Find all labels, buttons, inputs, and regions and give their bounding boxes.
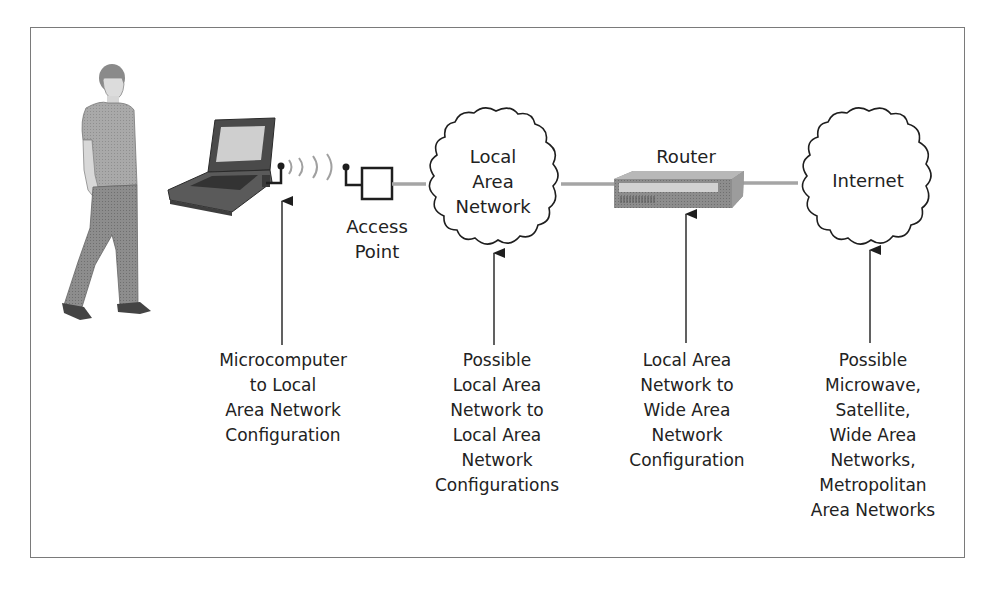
lan-label-line: Area [455,169,530,194]
annotation-line: Configuration [219,423,347,448]
router-label: Router [656,144,716,169]
router-label-line: Router [656,144,716,169]
annotation-internet: Possible Microwave, Satellite, Wide Area… [811,348,935,523]
annotation-line: Possible [811,348,935,373]
lan-label: Local Area Network [455,144,530,219]
annotation-line: to Local [219,373,347,398]
internet-label-line: Internet [832,168,903,193]
annotation-line: Local Area [629,348,744,373]
annotation-line: Network [629,423,744,448]
access-point-label-line: Access [346,214,408,239]
annotation-line: Network to [435,398,559,423]
router-icon [614,171,744,208]
access-point-label-line: Point [346,239,408,264]
annotation-line: Possible [435,348,559,373]
access-point-label: Access Point [346,214,408,264]
access-point-icon [343,164,393,200]
lan-label-line: Local [455,144,530,169]
annotation-line: Network [435,448,559,473]
annotation-line: Wide Area [629,398,744,423]
annotation-line: Microcomputer [219,348,347,373]
annotation-line: Metropolitan [811,473,935,498]
annotation-laptop: Microcomputer to Local Area Network Conf… [219,348,347,448]
annotation-line: Area Networks [811,498,935,523]
internet-label: Internet [832,168,903,193]
laptop-icon [168,118,275,216]
annotation-line: Satellite, [811,398,935,423]
lan-label-line: Network [455,194,530,219]
person-icon [62,64,151,320]
annotation-router: Local Area Network to Wide Area Network … [629,348,744,473]
annotation-line: Wide Area [811,423,935,448]
annotation-line: Network to [629,373,744,398]
annotation-lan: Possible Local Area Network to Local Are… [435,348,559,498]
annotation-line: Local Area [435,423,559,448]
annotation-line: Configuration [629,448,744,473]
annotation-line: Microwave, [811,373,935,398]
annotation-line: Area Network [219,398,347,423]
annotation-line: Configurations [435,473,559,498]
wireless-signal-icon [289,154,332,180]
annotation-line: Networks, [811,448,935,473]
annotation-line: Local Area [435,373,559,398]
